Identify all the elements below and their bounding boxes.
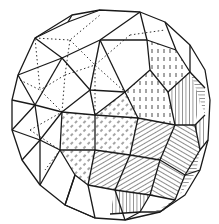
geodesic-sphere-drawing <box>0 0 219 224</box>
geodesic-sphere-illustration <box>0 0 219 224</box>
hatched-faces <box>60 40 206 214</box>
